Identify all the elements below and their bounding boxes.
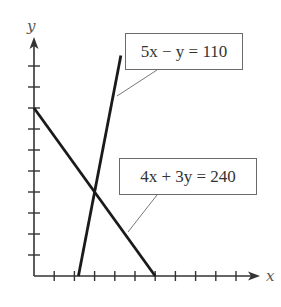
chart-area: y x 5x − y = 110 4x + 3y = 240 (0, 0, 281, 307)
equation-2-text: 4x + 3y = 240 (140, 167, 236, 187)
leader-line-1 (117, 70, 157, 96)
equation-1-text: 5x − y = 110 (141, 42, 228, 62)
leader-lines (117, 70, 157, 232)
y-axis-label: y (26, 17, 36, 35)
equation-label-2: 4x + 3y = 240 (119, 158, 257, 195)
leader-line-2 (128, 195, 157, 232)
series-line-1 (78, 56, 120, 277)
equation-label-1: 5x − y = 110 (125, 33, 243, 70)
x-axis-label: x (266, 267, 275, 285)
